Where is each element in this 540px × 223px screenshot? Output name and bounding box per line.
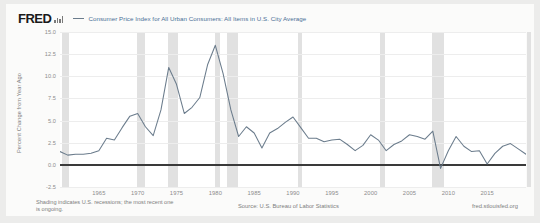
- source-note: Source: U.S. Bureau of Labor Statistics: [238, 203, 339, 209]
- series-line-cpi: [60, 32, 526, 187]
- y-axis-tick-label: 7.5: [12, 95, 56, 101]
- x-axis-tick-label: 1980: [209, 190, 222, 196]
- y-axis-tick-label: 0.0: [12, 162, 56, 168]
- bar-chart-icon: [54, 14, 63, 23]
- y-axis-title: Percent Change from Year Ago: [16, 48, 22, 178]
- y-axis-tick-label: -2.5: [12, 184, 56, 190]
- gridline: [60, 187, 526, 188]
- x-axis-tick-label: 1975: [170, 190, 183, 196]
- recession-shading-note: Shading indicates U.S. recessions; the m…: [36, 199, 176, 213]
- y-axis: Percent Change from Year Ago 15.012.510.…: [10, 32, 56, 187]
- y-axis-tick-label: 5.0: [12, 118, 56, 124]
- chart-header: FRED Consumer Price Index for All Urban …: [18, 10, 306, 26]
- x-axis-tick-label: 2000: [364, 190, 377, 196]
- x-axis-tick-label: 1985: [248, 190, 261, 196]
- legend-color-swatch: [73, 18, 84, 19]
- y-axis-tick-label: 10.0: [12, 73, 56, 79]
- x-axis-tick-label: 1995: [325, 190, 338, 196]
- fred-url-note: fred.stlouisfed.org: [472, 203, 518, 209]
- plot-area: [60, 32, 526, 187]
- chart-footer: Shading indicates U.S. recessions; the m…: [6, 199, 534, 217]
- x-axis-tick-label: 1990: [286, 190, 299, 196]
- legend-label: Consumer Price Index for All Urban Consu…: [88, 15, 306, 22]
- y-axis-tick-label: 2.5: [12, 140, 56, 146]
- x-axis-tick-label: 1970: [131, 190, 144, 196]
- chart-card: FRED Consumer Price Index for All Urban …: [6, 4, 534, 216]
- plot-canvas: [60, 32, 526, 187]
- fred-chart-screenshot: FRED Consumer Price Index for All Urban …: [0, 0, 540, 223]
- chart-legend[interactable]: Consumer Price Index for All Urban Consu…: [73, 15, 306, 22]
- fred-logo: FRED: [18, 12, 51, 25]
- y-axis-tick-label: 15.0: [12, 29, 56, 35]
- x-axis-tick-label: 2005: [403, 190, 416, 196]
- x-axis-tick-label: 2015: [481, 190, 494, 196]
- y-axis-tick-label: 12.5: [12, 51, 56, 57]
- x-axis-tick-label: 1965: [92, 190, 105, 196]
- recession-band: [527, 32, 531, 187]
- x-axis-tick-label: 2010: [442, 190, 455, 196]
